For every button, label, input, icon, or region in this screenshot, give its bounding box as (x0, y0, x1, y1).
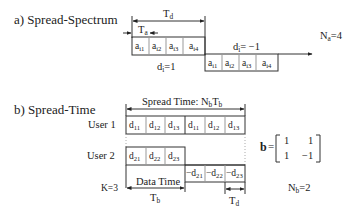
ta-label: Ta (138, 25, 148, 36)
nb-label: Nb=2 (288, 183, 310, 194)
chip-a-1-1: ai1 (135, 42, 144, 52)
user2-neg-cell-3: −d23 (226, 169, 243, 179)
matrix-right-bracket (316, 135, 320, 162)
td-label-a: Td (163, 9, 173, 20)
chip-a-2-1: ai1 (208, 59, 217, 69)
section-b-title: b) Spread-Time (14, 103, 96, 116)
user1-cell-4: d11 (188, 121, 199, 131)
user1-cell-1: d11 (129, 121, 140, 131)
matrix-cell-2-1: 1 (284, 151, 289, 162)
chip-a-1-4: ai4 (189, 42, 198, 52)
matrix-symbol: b (260, 141, 267, 153)
matrix-left-bracket (276, 135, 280, 162)
user2-label: User 2 (87, 151, 115, 162)
user1-cell-6: d13 (228, 121, 239, 131)
user1-label: User 1 (88, 120, 116, 131)
chip-a-2-3: ai3 (242, 59, 251, 69)
chip-a-2-2: ai2 (225, 59, 234, 69)
user2-cell-1: d21 (129, 152, 140, 162)
chip-a-1-2: ai2 (152, 42, 161, 52)
diagram-canvas: a) Spread-Spectrum Td Ta ai1 ai2 ai3 ai4… (0, 0, 358, 213)
user2-cell-3: d23 (168, 152, 179, 162)
symbol1-value: di=1 (157, 62, 175, 73)
matrix-cell-2-2: −1 (302, 151, 313, 162)
spread-time-label: Spread Time: NbTb (142, 97, 222, 108)
chip-a-1-3: ai3 (169, 42, 178, 52)
user2-neg-cell-2: −d22 (206, 169, 223, 179)
matrix-cell-1-1: 1 (284, 136, 289, 147)
td-label-b: Td (229, 196, 239, 207)
symbol2-value: di= −1 (233, 42, 260, 53)
user1-cell-3: d13 (168, 121, 179, 131)
chip-a-2-4: ai4 (262, 59, 271, 69)
user1-cell-2: d12 (149, 121, 160, 131)
na-label: Na=4 (320, 31, 342, 42)
matrix-cell-1-2: 1 (308, 136, 313, 147)
tb-label: Tb (150, 193, 160, 204)
user2-neg-cell-1: −d21 (186, 169, 203, 179)
matrix-equals: = (268, 141, 274, 152)
section-a-title: a) Spread-Spectrum (14, 13, 118, 26)
user2-cell-2: d22 (149, 152, 160, 162)
user1-cell-5: d12 (208, 121, 219, 131)
k-label: K=3 (101, 184, 118, 194)
data-time-label: Data Time (136, 177, 180, 188)
